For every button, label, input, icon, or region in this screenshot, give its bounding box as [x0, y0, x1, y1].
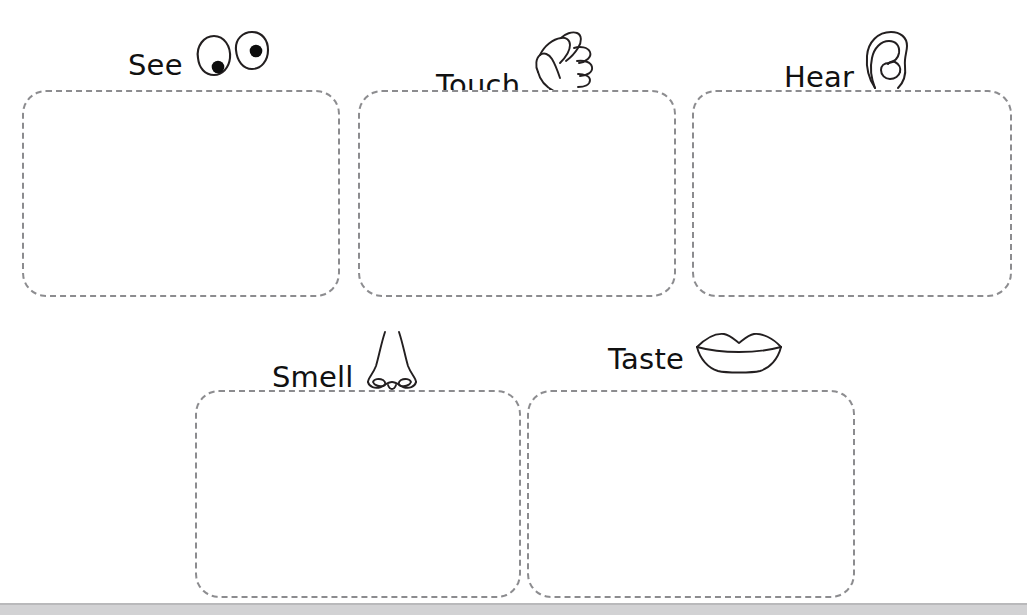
- sense-label-hear: Hear: [784, 63, 854, 92]
- sense-header-smell: Smell: [272, 330, 420, 392]
- bottom-strip: [0, 603, 1027, 615]
- sense-label-smell: Smell: [272, 363, 354, 392]
- sense-answer-box-touch[interactable]: [358, 90, 676, 297]
- sense-answer-box-hear[interactable]: [692, 90, 1012, 297]
- eyes-icon: [193, 30, 271, 80]
- sense-answer-box-taste[interactable]: [527, 390, 855, 598]
- sense-header-hear: Hear: [784, 30, 912, 92]
- sense-answer-box-see[interactable]: [22, 90, 340, 297]
- sense-label-taste: Taste: [608, 345, 684, 374]
- sense-header-taste: Taste: [608, 330, 784, 374]
- sense-header-see: See: [128, 30, 271, 80]
- five-senses-worksheet: See Touch: [0, 0, 1027, 615]
- sense-label-see: See: [128, 51, 183, 80]
- ear-icon: [864, 30, 912, 92]
- nose-icon: [364, 330, 420, 392]
- lips-icon: [694, 330, 784, 374]
- sense-answer-box-smell[interactable]: [195, 390, 521, 598]
